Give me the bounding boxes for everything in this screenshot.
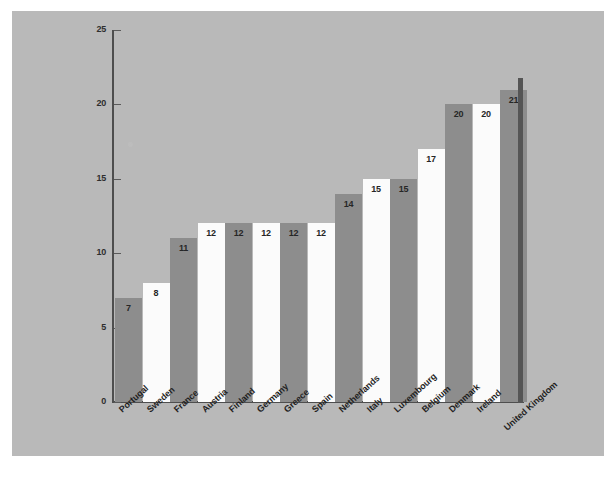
plot-panel: 0510152025 7811121212121214151517202021 …	[12, 11, 604, 456]
x-axis-label: Portugal	[117, 383, 150, 414]
x-axis-label-group: PortugalSwedenFranceAustriaFinlandGerman…	[12, 11, 604, 456]
x-axis-label: Italy	[365, 395, 385, 414]
x-axis-label: United Kingdom	[502, 379, 559, 432]
x-axis-label: Austria	[200, 387, 229, 415]
x-axis-label: Finland	[227, 386, 257, 414]
bar-chart-figure: 0510152025 7811121212121214151517202021 …	[0, 0, 616, 481]
x-axis-label: Spain	[310, 391, 335, 415]
